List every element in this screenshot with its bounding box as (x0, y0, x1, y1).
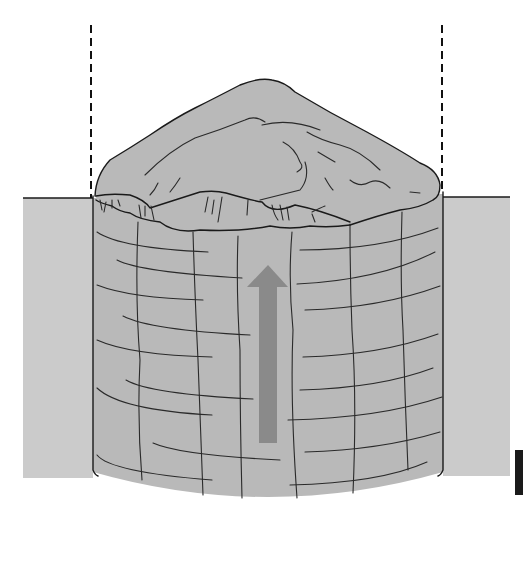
core-crown (95, 79, 440, 231)
corner-marker (515, 450, 523, 495)
ground-left (23, 198, 93, 478)
ground-right (443, 197, 510, 476)
core-extrusion-diagram (0, 0, 523, 583)
